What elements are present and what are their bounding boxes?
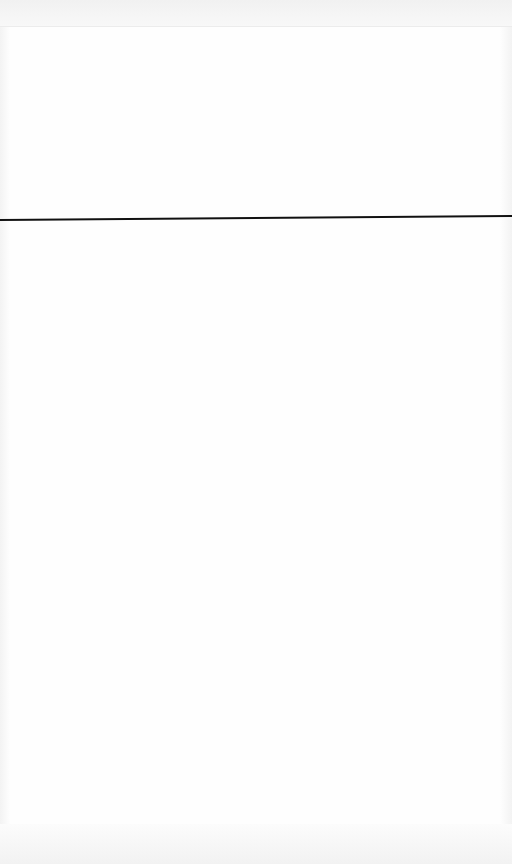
top-edge-band [0, 0, 512, 27]
horizontal-divider [0, 215, 512, 221]
bottom-edge-band [0, 824, 512, 864]
blank-page [0, 0, 512, 864]
